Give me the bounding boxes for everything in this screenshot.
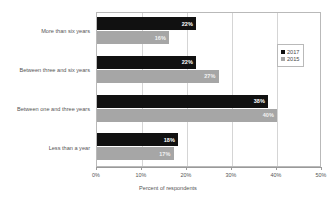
- bar-2017-3[interactable]: 18%: [97, 133, 178, 146]
- bar-group: 18%17%: [97, 129, 320, 168]
- bar-value-label: 18%: [164, 137, 175, 143]
- category-label-3: Less than a year: [0, 145, 90, 151]
- bar-2017-0[interactable]: 22%: [97, 17, 196, 30]
- bar-value-label: 22%: [182, 21, 193, 27]
- bar-value-label: 27%: [204, 73, 215, 79]
- legend-label-2017: 2017: [287, 49, 299, 55]
- x-tick-label: 20%: [181, 172, 192, 178]
- x-tick: [276, 167, 277, 170]
- x-tick: [321, 167, 322, 170]
- x-tick-label: 0%: [92, 172, 100, 178]
- bar-chart: 22%16%22%27%38%40%18%17% More than six y…: [0, 0, 336, 208]
- bar-2015-1[interactable]: 27%: [97, 70, 219, 83]
- x-tick-label: 50%: [316, 172, 327, 178]
- square-black-icon: [281, 50, 285, 54]
- x-tick-label: 10%: [136, 172, 147, 178]
- bar-2017-1[interactable]: 22%: [97, 56, 196, 69]
- x-tick-label: 30%: [226, 172, 237, 178]
- category-label-0: More than six years: [0, 28, 90, 34]
- x-axis-line: [96, 167, 321, 168]
- x-tick: [231, 167, 232, 170]
- chart-legend: 2017 2015: [277, 44, 304, 67]
- bar-value-label: 38%: [254, 98, 265, 104]
- category-label-1: Between three and six years: [0, 67, 90, 73]
- bar-2015-2[interactable]: 40%: [97, 109, 277, 122]
- plot-area: 22%16%22%27%38%40%18%17%: [96, 12, 321, 167]
- legend-item-2015[interactable]: 2015: [281, 56, 299, 62]
- x-tick-label: 40%: [271, 172, 282, 178]
- bar-2017-2[interactable]: 38%: [97, 95, 268, 108]
- bar-2015-3[interactable]: 17%: [97, 147, 174, 160]
- square-gray-icon: [281, 57, 285, 61]
- bar-value-label: 22%: [182, 59, 193, 65]
- x-tick: [186, 167, 187, 170]
- bar-value-label: 17%: [159, 151, 170, 157]
- legend-label-2015: 2015: [287, 56, 299, 62]
- x-tick: [96, 167, 97, 170]
- bar-2015-0[interactable]: 16%: [97, 31, 169, 44]
- legend-item-2017[interactable]: 2017: [281, 49, 299, 55]
- bar-value-label: 16%: [155, 35, 166, 41]
- x-tick: [141, 167, 142, 170]
- category-label-2: Between one and three years: [0, 106, 90, 112]
- bar-value-label: 40%: [263, 112, 274, 118]
- x-axis-title: Percent of respondents: [0, 185, 336, 191]
- bar-group: 38%40%: [97, 91, 320, 130]
